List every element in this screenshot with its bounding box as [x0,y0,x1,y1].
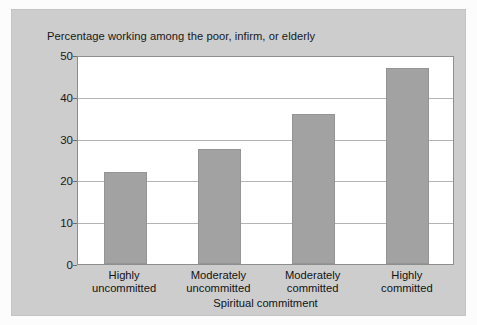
figure-panel: Percentage working among the poor, infir… [11,9,466,316]
y-axis-tick-label: 40 [47,92,73,104]
x-axis-category-label-line: uncommitted [74,282,174,295]
bar[interactable] [198,149,241,264]
y-axis-tick-label: 0 [47,259,73,271]
bar[interactable] [292,114,335,264]
x-axis-category-label-line: uncommitted [168,282,268,295]
y-axis-tick-labels: 01020304050 [44,56,73,265]
bars-layer [78,57,453,264]
y-axis-tick-label: 20 [47,175,73,187]
x-axis-category-label-line: Highly [357,269,457,282]
y-axis-tick-mark [73,181,77,182]
y-axis-tick-mark [73,140,77,141]
x-axis-category-label-line: Highly [74,269,174,282]
y-axis-tick-label: 30 [47,134,73,146]
bar[interactable] [104,172,147,264]
y-axis-tick-label: 10 [47,217,73,229]
plot-area [77,56,454,265]
bar[interactable] [386,68,429,264]
x-axis-category-label-line: Moderately [263,269,363,282]
y-axis-tick-mark [73,265,77,266]
x-axis-label: Spiritual commitment [77,297,454,309]
x-axis-category-label: Highlyuncommitted [74,269,174,294]
scanned-page: Percentage working among the poor, infir… [0,0,477,325]
x-axis-category-label-line: committed [357,282,457,295]
chart-title: Percentage working among the poor, infir… [47,30,315,42]
y-axis-tick-mark [73,223,77,224]
x-axis-category-label: Moderatelycommitted [263,269,363,294]
x-axis-category-label-line: Moderately [168,269,268,282]
y-axis-tick-mark [73,98,77,99]
x-axis-category-label: Highlycommitted [357,269,457,294]
y-axis-tick-mark [73,56,77,57]
x-axis-category-label: Moderatelyuncommitted [168,269,268,294]
x-axis-category-label-line: committed [263,282,363,295]
y-axis-tick-label: 50 [47,50,73,62]
